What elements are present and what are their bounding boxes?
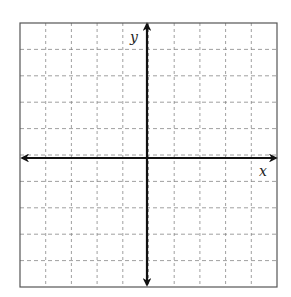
coordinate-plane: x y [0,0,291,297]
grid [20,23,277,287]
x-axis-label: x [259,163,267,179]
y-axis-label: y [129,29,139,45]
